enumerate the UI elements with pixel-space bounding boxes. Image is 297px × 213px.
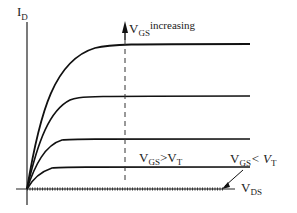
vgs-increasing-label: VGSincreasing	[129, 19, 196, 38]
vgs-below-vt-label: VGS< VT	[230, 151, 277, 168]
vgs-above-vt-label: VGS>VT	[139, 150, 183, 167]
x-axis-label: VDS	[241, 180, 262, 197]
y-axis-label: ID	[17, 4, 28, 22]
mosfet-characteristics-diagram: ID VDS VGSincreasing VGS>VT VGS< VT	[0, 0, 297, 213]
curve-vgs-1	[27, 167, 250, 189]
curve-vgs-3	[27, 96, 250, 189]
